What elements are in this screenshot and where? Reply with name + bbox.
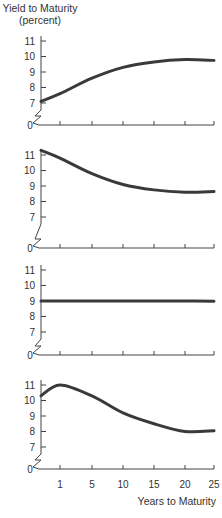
y-tick-label: 9 [29,411,35,422]
panel-c: 11109870 [24,265,214,362]
x-tick-label: 20 [179,479,191,490]
x-tick-label: 5 [89,479,95,490]
axis-break-icon [33,224,41,246]
x-tick-label: 10 [117,479,129,490]
y-tick-label: 8 [29,426,35,437]
y-tick-label: 7 [29,442,35,453]
x-tick-label: 1 [57,479,63,490]
y-tick-label: 7 [29,98,35,109]
y-tick-label: 11 [25,36,36,47]
panel-d: 11109870 [24,380,214,476]
axis-break-tail [33,246,41,248]
y-tick-label: 10 [24,395,36,406]
x-tick-labels: 1510152025 [57,479,220,490]
axis-break-icon [33,110,41,123]
yield-curve-figure: Yield to Maturity (percent) 111098701110… [0,0,222,518]
axis-break-tail [33,123,41,125]
y-tick-label: 10 [24,280,36,291]
y-tick-label: 10 [24,165,36,176]
yield-curve-line [41,150,214,192]
y-tick-label: 11 [25,265,36,276]
y-tick-label: 9 [29,181,35,192]
y-axis-title-line1: Yield to Maturity [3,2,79,14]
chart-panels: 11109870111098701110987011109870 [24,36,214,476]
panel-a: 11109870 [24,36,214,132]
y-tick-label: 10 [24,51,36,62]
zero-label: 0 [27,464,33,475]
y-tick-label: 8 [29,196,35,207]
y-tick-label: 9 [29,296,35,307]
y-tick-label: 11 [25,380,36,391]
axis-break-icon [33,454,41,467]
y-axis-title-line2: (percent) [19,14,61,26]
panel-b: 11109870 [24,150,214,255]
x-tick-label: 25 [208,479,220,490]
zero-label: 0 [27,350,33,361]
y-tick-label: 7 [29,327,35,338]
axis-break-icon [33,339,41,353]
x-axis-title: Years to Maturity [138,495,217,507]
zero-label: 0 [27,243,33,254]
y-tick-label: 7 [29,212,35,223]
yield-curve-line [41,385,214,432]
axis-break-tail [33,353,41,355]
y-tick-label: 9 [29,67,35,78]
y-tick-label: 11 [25,150,36,161]
zero-label: 0 [27,120,33,131]
x-tick-label: 15 [148,479,160,490]
axis-break-tail [33,467,41,469]
yield-curve-line [41,60,214,102]
y-tick-label: 8 [29,311,35,322]
y-tick-label: 8 [29,82,35,93]
